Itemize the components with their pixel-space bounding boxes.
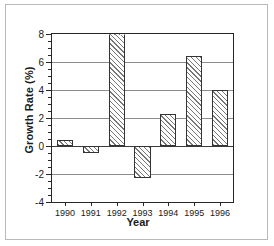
y-minor-tick [48,160,52,161]
bar [160,114,176,146]
y-tick-label: 2 [38,113,44,124]
y-minor-tick [48,97,52,98]
x-tick-mark [65,202,66,206]
y-tick-mark [46,118,52,119]
y-minor-tick [48,139,52,140]
y-minor-tick [48,125,52,126]
y-minor-tick [48,76,52,77]
x-tick-mark [117,202,118,206]
y-tick-mark [46,62,52,63]
y-minor-tick [48,69,52,70]
y-tick-label: 8 [38,29,44,40]
y-tick-label: -4 [35,197,44,208]
x-tick-mark [220,202,221,206]
y-axis-title: Growth Rate (%) [23,40,35,180]
gridline [52,62,233,63]
x-tick-mark [168,202,169,206]
bar [186,56,202,146]
bar [212,90,228,146]
bar [57,140,73,146]
y-tick-label: 6 [38,57,44,68]
bar [134,146,150,178]
figure-page: Growth Rate (%) Year 86420-2-4 199019911… [0,0,274,246]
bar [109,34,125,146]
y-minor-tick [48,153,52,154]
y-minor-tick [48,104,52,105]
y-minor-tick [48,188,52,189]
x-tick-mark [143,202,144,206]
y-minor-tick [48,48,52,49]
y-minor-tick [48,181,52,182]
y-tick-label: -2 [35,169,44,180]
x-tick-label: 1992 [107,208,127,218]
y-minor-tick [48,41,52,42]
y-tick-mark [46,174,52,175]
y-minor-tick [48,55,52,56]
y-minor-tick [48,132,52,133]
y-tick-mark [46,34,52,35]
bar [83,146,99,153]
bar-chart-figure: Growth Rate (%) Year 86420-2-4 199019911… [0,0,274,246]
x-tick-label: 1996 [210,208,230,218]
y-tick-label: 4 [38,85,44,96]
x-tick-label: 1990 [55,208,75,218]
y-tick-mark [46,202,52,203]
y-tick-mark [46,146,52,147]
y-minor-tick [48,195,52,196]
gridline [52,90,233,91]
y-minor-tick [48,83,52,84]
x-tick-label: 1993 [132,208,152,218]
y-minor-tick [48,167,52,168]
y-tick-label: 0 [38,141,44,152]
x-tick-mark [194,202,195,206]
y-minor-tick [48,111,52,112]
x-tick-label: 1994 [158,208,178,218]
x-tick-mark [91,202,92,206]
y-tick-mark [46,90,52,91]
x-tick-label: 1991 [81,208,101,218]
gridline [52,118,233,119]
plot-area: 86420-2-4 1990199119921993199419951996 [51,33,234,203]
x-tick-label: 1995 [184,208,204,218]
